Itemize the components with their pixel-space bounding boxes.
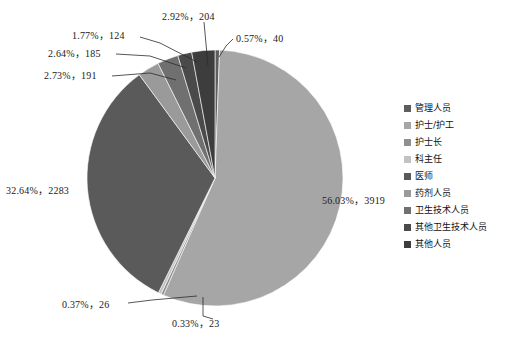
legend-swatch-icon [404,156,411,163]
data-label-qita-weisheng-jishu: 1.77%，124 [72,27,125,42]
data-label-kezhuren: 0.37%，26 [62,296,109,311]
legend-swatch-icon [404,207,411,214]
legend-item-label: 护士长 [415,138,442,147]
data-label-qita-renyuan: 2.92%，204 [162,8,215,23]
legend-item[interactable]: 其他人员 [404,236,528,252]
legend-item[interactable]: 卫生技术人员 [404,202,528,218]
data-label-yishi: 32.64%，2283 [6,182,69,197]
legend-swatch-icon [404,139,411,146]
legend-item[interactable]: 医师 [404,168,528,184]
legend-item-label: 护士/护工 [415,121,454,130]
legend-item-label: 医师 [415,172,433,181]
legend-item-label: 科主任 [415,155,442,164]
legend-swatch-icon [404,190,411,197]
pie-slices-group [87,50,343,306]
pie-chart-figure: 2.92%，204 1.77%，124 2.64%，185 2.73%，191 … [0,0,528,337]
data-label-yaoji: 2.73%，191 [44,67,97,82]
legend-item-label: 卫生技术人员 [415,206,469,215]
legend-item[interactable]: 其他卫生技术人员 [404,219,528,235]
legend-swatch-icon [404,173,411,180]
legend-item[interactable]: 护士长 [404,134,528,150]
legend-item[interactable]: 护士/护工 [404,117,528,133]
legend-item[interactable]: 科主任 [404,151,528,167]
legend-swatch-icon [404,241,411,248]
legend-item-label: 其他卫生技术人员 [415,223,487,232]
legend-item[interactable]: 管理人员 [404,100,528,116]
legend-swatch-icon [404,122,411,129]
legend-item[interactable]: 药剂人员 [404,185,528,201]
data-label-guanli: 0.57%，40 [236,30,283,45]
legend-item-label: 管理人员 [415,104,451,113]
data-label-hushizhang: 0.33%，23 [172,315,219,330]
chart-legend: 管理人员护士/护工护士长科主任医师药剂人员卫生技术人员其他卫生技术人员其他人员 [404,100,528,253]
legend-swatch-icon [404,105,411,112]
data-label-hushi-hugong: 56.03%，3919 [322,192,385,207]
legend-item-label: 其他人员 [415,240,451,249]
legend-swatch-icon [404,224,411,231]
data-label-weisheng-jishu: 2.64%，185 [48,45,101,60]
legend-item-label: 药剂人员 [415,189,451,198]
